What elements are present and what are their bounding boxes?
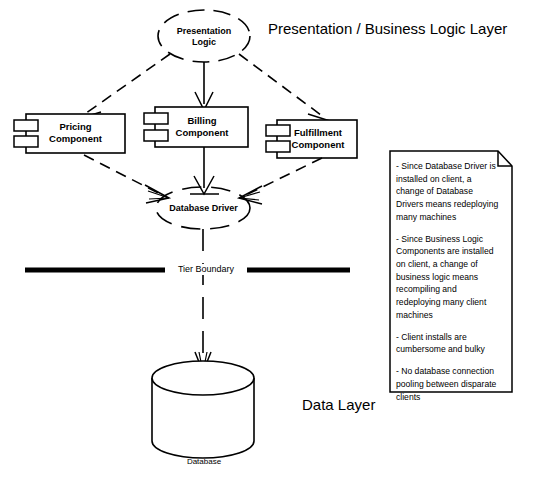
fulfillment-component-tab-bottom [266,141,290,152]
database-cylinder-top [152,361,254,395]
arrow-pricing-to-driver [84,155,164,196]
arrow-presentation-to-fulfillment [239,54,325,118]
uml-architecture-diagram: Presentation / Business Logic Layer Pres… [0,0,536,477]
pricing-component-tab-top [14,120,38,131]
pricing-component-box[interactable] [26,114,125,153]
billing-component-box[interactable] [155,107,248,147]
note-bullet: - Since Business Logic Components are in… [396,233,502,322]
note-bullet: - Client installs are cumbersome and bul… [396,331,502,356]
billing-component-tab-bottom [144,130,168,141]
pricing-component-tab-bottom [14,136,38,147]
note-bullet: - Since Database Driver is installed on … [396,160,502,224]
fulfillment-component-tab-top [266,125,290,136]
billing-component-tab-top [144,113,168,124]
note-text-content: - Since Database Driver is installed on … [396,160,502,403]
presentation-logic-ellipse[interactable] [158,10,250,62]
arrow-fulfillment-to-driver [244,158,322,196]
note-bullet: - No database connection pooling between… [396,365,502,403]
